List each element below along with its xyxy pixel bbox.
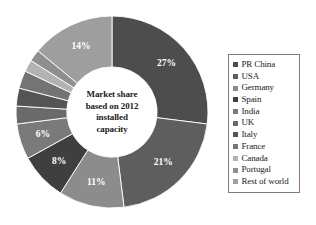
legend-swatch-icon [233, 97, 238, 102]
legend-item-label: USA [242, 71, 260, 83]
legend-item[interactable]: Canada [233, 153, 296, 165]
donut-chart-figure: 27%21%11%8%6%3%3%3%2%2%14% Market share … [0, 0, 316, 225]
legend-item-label: India [242, 106, 260, 118]
legend-item[interactable]: India [233, 106, 296, 118]
chart-legend: PR ChinaUSAGermanySpainIndiaUKItalyFranc… [228, 54, 300, 193]
donut-chart: 27%21%11%8%6%3%3%3%2%2%14% Market share … [14, 14, 210, 210]
legend-item[interactable]: UK [233, 117, 296, 129]
legend-item-label: Germany [242, 82, 274, 94]
center-annotation-line-1: Market share [69, 89, 155, 101]
slice-percent-label: 8% [52, 156, 66, 166]
center-annotation: Market share based on 2012 installed cap… [69, 89, 155, 135]
slice-percent-label: 14% [72, 41, 91, 51]
center-annotation-line-4: capacity [69, 124, 155, 136]
slice-percent-label: 2% [23, 47, 34, 56]
legend-item[interactable]: Italy [233, 129, 296, 141]
legend-item-label: Rest of world [242, 176, 289, 188]
legend-item-label: PR China [242, 59, 276, 71]
legend-swatch-icon [233, 168, 238, 173]
legend-swatch-icon [233, 86, 238, 91]
legend-swatch-icon [233, 132, 238, 137]
center-annotation-line-2: based on 2012 [69, 101, 155, 113]
legend-item[interactable]: PR China [233, 59, 296, 71]
legend-item[interactable]: Spain [233, 94, 296, 106]
slice-percent-label: 3% [14, 72, 21, 81]
legend-swatch-icon [233, 156, 238, 161]
legend-item[interactable]: Germany [233, 82, 296, 94]
legend-item[interactable]: USA [233, 71, 296, 83]
slice-percent-label: 11% [87, 177, 105, 187]
center-annotation-line-3: installed [69, 112, 155, 124]
legend-swatch-icon [233, 62, 238, 67]
slice-percent-label: 3% [14, 91, 16, 100]
slice-percent-label: 2% [17, 57, 28, 66]
legend-item-label: Spain [242, 94, 262, 106]
slice-percent-label: 27% [157, 58, 176, 68]
legend-item-label: UK [242, 117, 255, 129]
legend-item-label: France [242, 141, 266, 153]
slice-percent-label: 6% [36, 129, 50, 139]
legend-item[interactable]: Rest of world [233, 176, 296, 188]
legend-swatch-icon [233, 179, 238, 184]
legend-swatch-icon [233, 144, 238, 149]
legend-swatch-icon [233, 121, 238, 126]
legend-swatch-icon [233, 74, 238, 79]
legend-swatch-icon [233, 109, 238, 114]
legend-item-label: Italy [242, 129, 258, 141]
legend-item[interactable]: Portugal [233, 164, 296, 176]
legend-item-label: Portugal [242, 164, 271, 176]
legend-item-label: Canada [242, 153, 268, 165]
slice-percent-label: 21% [154, 157, 173, 167]
slice-percent-label: 3% [14, 110, 15, 119]
legend-item[interactable]: France [233, 141, 296, 153]
